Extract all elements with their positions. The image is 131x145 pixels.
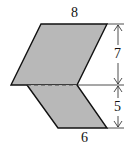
composite-shape-diagram [0,0,131,145]
label-lower-height: 5 [114,100,121,114]
label-upper-height: 7 [114,47,121,61]
label-top-width: 8 [71,6,78,20]
upper-parallelogram [11,24,107,85]
lower-parallelogram [27,85,107,128]
label-bottom-width: 6 [81,131,88,145]
